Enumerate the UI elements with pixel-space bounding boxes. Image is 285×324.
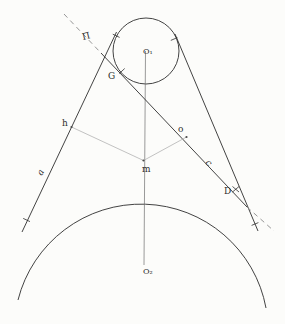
tangent-circles-diagram: Π G O₁ h o a c m D O₂ <box>0 0 285 324</box>
left-tangent-line <box>22 32 117 232</box>
label-m: m <box>142 164 151 174</box>
center-line <box>144 51 146 265</box>
transversal-dashed-lower <box>247 207 274 231</box>
large-circle-arc <box>18 204 266 308</box>
cross-mark-d <box>233 187 240 193</box>
chord-h-m <box>72 127 144 161</box>
label-h: h <box>62 118 68 128</box>
label-pi: Π <box>81 30 91 42</box>
right-tangent-line <box>175 34 258 231</box>
label-a: a <box>35 168 46 177</box>
chord-o-m <box>144 137 187 161</box>
tick-left-large-tangency <box>23 218 30 221</box>
label-o1: O₁ <box>143 47 153 56</box>
label-o2: O₂ <box>143 267 153 276</box>
label-o: o <box>178 124 183 134</box>
point-m-dot <box>142 159 144 161</box>
label-g: G <box>108 71 115 81</box>
figure-page: Π G O₁ h o a c m D O₂ <box>0 0 285 324</box>
transversal-line <box>101 53 247 207</box>
label-d: D <box>224 186 231 196</box>
point-h-dot <box>70 126 72 128</box>
point-o-dot <box>185 136 187 138</box>
